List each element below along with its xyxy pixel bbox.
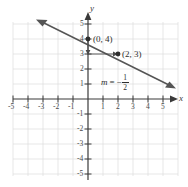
y-tick-label--2: -2 xyxy=(77,125,83,133)
coordinate-graph-figure: y x -5 -4 -3 -2 -1 1 2 3 4 5 5 4 3 2 1 -… xyxy=(0,0,188,187)
line-arrowhead-right xyxy=(165,82,176,89)
x-tick-label--1: -1 xyxy=(68,103,74,111)
y-tick-label-1: 1 xyxy=(80,80,84,88)
slope-annotation: m = − 1 2 xyxy=(101,74,129,91)
graph-canvas xyxy=(0,0,188,187)
y-tick-label--3: -3 xyxy=(77,140,83,148)
x-axis-label: x xyxy=(179,94,183,103)
x-tick-label--2: -2 xyxy=(53,103,59,111)
y-axis-arrowhead xyxy=(85,12,92,20)
y-tick-label-5: 5 xyxy=(80,20,84,28)
x-tick-label-5: 5 xyxy=(161,103,165,111)
y-tick-label--1: -1 xyxy=(77,110,83,118)
fraction-denominator: 2 xyxy=(122,84,128,92)
y-tick-label-3: 3 xyxy=(80,50,84,58)
x-tick-label-2: 2 xyxy=(116,103,120,111)
x-tick-label-1: 1 xyxy=(101,103,105,111)
x-tick-label-4: 4 xyxy=(146,103,150,111)
x-tick-label--4: -4 xyxy=(23,103,29,111)
point-label-0-4: (0, 4) xyxy=(93,35,113,44)
x-tick-label-3: 3 xyxy=(131,103,135,111)
y-tick-label--4: -4 xyxy=(77,155,83,163)
point-label-2-3: (2, 3) xyxy=(122,50,142,59)
point-2-3 xyxy=(116,52,121,57)
point-0-4 xyxy=(86,37,91,42)
fraction-numerator: 1 xyxy=(122,74,128,82)
line-arrowhead-left xyxy=(36,20,48,27)
y-tick-label--5: -5 xyxy=(77,170,83,178)
x-axis-arrowhead xyxy=(170,96,178,103)
x-tick-label--3: -3 xyxy=(38,103,44,111)
y-axis-label: y xyxy=(90,4,94,13)
x-tick-label--5: -5 xyxy=(8,103,14,111)
y-tick-label-4: 4 xyxy=(80,35,84,43)
slope-fraction: 1 2 xyxy=(122,74,129,91)
slope-equals-sign: = xyxy=(110,78,115,87)
slope-variable: m xyxy=(101,78,108,87)
y-tick-label-2: 2 xyxy=(80,65,84,73)
